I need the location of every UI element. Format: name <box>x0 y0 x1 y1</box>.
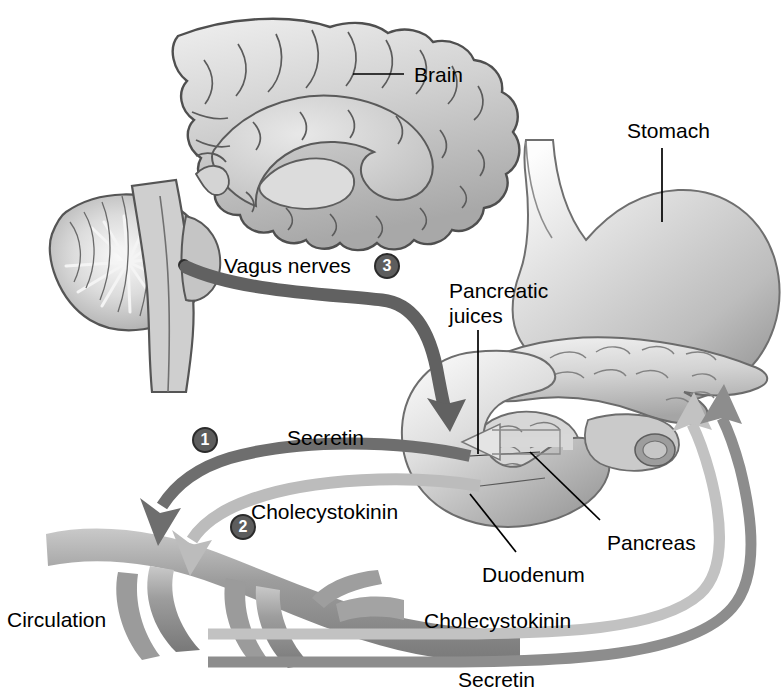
label-secretin-top: Secretin <box>287 425 364 450</box>
pituitary <box>196 166 229 195</box>
label-pancreas: Pancreas <box>607 530 696 555</box>
label-circulation: Circulation <box>7 607 106 632</box>
illustration-layer <box>0 0 783 696</box>
vessel-branch-left <box>147 566 200 652</box>
label-cholecystokinin-bottom: Cholecystokinin <box>424 608 571 633</box>
label-brain: Brain <box>414 62 463 87</box>
circulation-vessel <box>46 528 520 668</box>
duodenum-lumen-inner <box>643 441 667 459</box>
marker-2: 2 <box>230 514 256 540</box>
anatomy-diagram: Brain Stomach Vagus nerves Pancreatic ju… <box>0 0 783 696</box>
marker-3: 3 <box>374 253 400 279</box>
label-vagus-nerves: Vagus nerves <box>224 253 351 278</box>
label-duodenum: Duodenum <box>482 562 585 587</box>
label-cholecystokinin-top: Cholecystokinin <box>251 499 398 524</box>
label-pancreatic-juices-line1: Pancreatic <box>449 278 548 303</box>
pons <box>182 216 221 301</box>
marker-1: 1 <box>192 427 218 453</box>
label-secretin-bottom: Secretin <box>458 667 535 692</box>
label-stomach: Stomach <box>627 118 710 143</box>
label-pancreatic-juices-line2: juices <box>449 303 503 328</box>
vagus-nerve-path <box>186 267 445 410</box>
